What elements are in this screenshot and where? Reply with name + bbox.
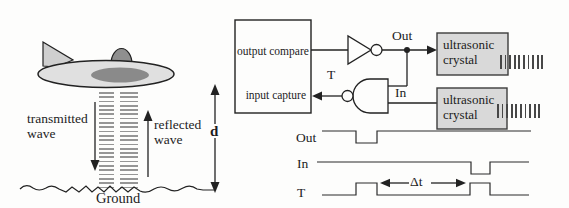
vibration-lines-bottom: [497, 104, 542, 118]
reflected-wave-arrow: [144, 110, 153, 177]
body-inner-ellipse: [91, 68, 149, 83]
crystal-top-label-line2: crystal: [443, 52, 478, 67]
distance-label: d: [208, 124, 220, 138]
crystal-top-label-line1: ultrasonic: [443, 37, 494, 52]
inverter-gate: [348, 36, 382, 64]
ultrasonic-ranging-diagram: transmitted wave reflected wave Ground d…: [0, 0, 569, 208]
aircraft-illustration: [38, 42, 174, 88]
timing-t-label: T: [297, 186, 305, 200]
transmitted-wave-arrow: [91, 102, 100, 171]
timing-out-label: Out: [296, 131, 316, 145]
out-arrowhead: [427, 46, 437, 55]
crystal-bottom-label-line1: ultrasonic: [443, 92, 494, 107]
t-waveform: [322, 183, 529, 195]
in-signal-label: In: [395, 86, 406, 100]
crystal-bottom-label-line2: crystal: [443, 107, 478, 122]
out-signal-label: Out: [392, 29, 412, 43]
output-compare-label: output compare: [237, 45, 308, 57]
input-capture-label: input capture: [235, 89, 306, 101]
reflected-wave-label-line1: reflected: [154, 118, 201, 132]
vibration-lines-top: [500, 55, 544, 69]
transmitted-wave-label-line1: transmitted: [27, 112, 88, 126]
input-capture-arrowhead: [312, 92, 322, 101]
in-waveform: [317, 162, 529, 174]
out-waveform: [322, 131, 531, 143]
nand-gate: [342, 79, 388, 113]
timing-in-label: In: [297, 157, 308, 171]
reflected-wave-label-line2: wave: [154, 133, 182, 147]
delta-t-label: Δt: [410, 175, 422, 189]
t-signal-label: T: [327, 68, 335, 82]
transmitted-wave-label-line2: wave: [27, 127, 55, 141]
ground-label: Ground: [96, 191, 140, 205]
delta-t-arrow: [380, 179, 466, 187]
